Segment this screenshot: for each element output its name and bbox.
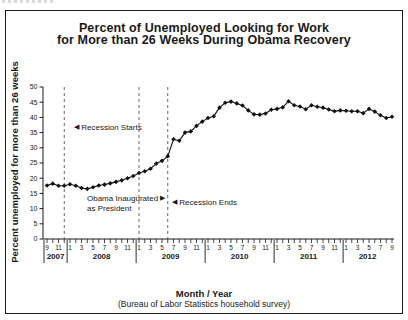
data-point-marker [125,176,130,181]
annotation-recession-ends: ◀ Recession Ends [172,197,237,208]
data-point-marker [315,104,320,109]
y-tick-label: 5 [34,220,38,227]
month-tick-label: 9 [183,244,187,251]
month-tick-label: 3 [218,244,222,251]
month-tick-label: 3 [287,244,291,251]
data-point-marker [234,101,239,106]
data-point-marker [85,187,90,192]
month-tick-label: 3 [356,244,360,251]
month-tick-label: 7 [379,244,383,251]
year-label: 2012 [359,252,377,261]
data-point-marker [355,109,360,114]
annotation-obama-label-line2: as President [87,204,165,214]
year-label: 2011 [300,252,318,261]
month-tick-label: 11 [193,244,200,251]
data-point-marker [344,108,349,113]
data-point-marker [119,178,124,183]
chart-page: Percent of Unemployed Looking for Work f… [0,0,408,320]
y-tick-label: 30 [30,144,38,151]
annotation-recession-starts-label: Recession Starts [81,123,141,132]
month-tick-label: 7 [310,244,314,251]
plot-area: 0510152025303540455091113579111357911135… [0,0,408,320]
data-series-line [47,101,392,189]
y-tick-label: 20 [30,175,38,182]
y-tick-label: 25 [30,159,38,166]
annotation-obama-label-line1: Obama Inaugurated [87,194,158,203]
data-point-marker [102,182,107,187]
data-point-marker [332,109,337,114]
data-point-marker [108,181,113,186]
data-point-marker [229,99,234,104]
month-tick-label: 5 [160,244,164,251]
year-label: 2008 [93,252,111,261]
left-arrow-icon: ◀ [74,123,79,130]
annotation-obama-inaugurated: Obama Inaugurated ▶ as President [87,193,165,214]
data-point-marker [338,108,343,113]
y-tick-label: 40 [30,114,38,121]
month-tick-label: 5 [367,244,371,251]
y-tick-label: 35 [30,129,38,136]
x-axis-label-block: Month / Year (Bureau of Labor Statistics… [5,288,403,309]
x-axis-source-note: (Bureau of Labor Statistics household su… [5,299,403,309]
data-point-marker [91,185,96,190]
annotation-recession-starts: ◀ Recession Starts [74,122,142,133]
month-tick-label: 9 [390,244,394,251]
data-point-marker [321,105,326,110]
month-tick-label: 11 [262,244,269,251]
y-tick-label: 15 [30,190,38,197]
y-tick-label: 45 [30,99,38,106]
data-point-marker [142,169,147,174]
month-tick-label: 1 [68,244,72,251]
data-point-marker [257,112,262,117]
data-point-marker [62,184,67,189]
y-tick-label: 50 [30,83,38,90]
data-point-marker [114,180,119,185]
month-tick-label: 11 [331,244,338,251]
data-point-marker [131,174,136,179]
data-point-marker [68,182,73,187]
month-tick-label: 3 [149,244,153,251]
left-arrow-icon: ◀ [172,198,177,205]
month-tick-label: 3 [80,244,84,251]
data-point-marker [50,181,55,186]
data-point-marker [137,171,142,176]
y-tick-label: 0 [34,235,38,242]
x-axis-label: Month / Year [5,288,403,299]
month-tick-label: 1 [137,244,141,251]
month-tick-label: 7 [241,244,245,251]
month-tick-label: 1 [344,244,348,251]
data-point-marker [298,104,303,109]
data-point-marker [390,114,395,119]
data-point-marker [45,183,50,188]
annotation-recession-ends-label: Recession Ends [179,198,237,207]
year-label: 2009 [162,252,180,261]
month-tick-label: 9 [114,244,118,251]
month-tick-label: 1 [275,244,279,251]
month-tick-label: 7 [103,244,107,251]
month-tick-label: 9 [45,244,49,251]
month-tick-label: 5 [91,244,95,251]
month-tick-label: 11 [124,244,131,251]
data-point-marker [326,107,331,112]
y-tick-label: 10 [30,205,38,212]
data-point-marker [79,186,84,191]
data-point-marker [349,109,354,114]
month-tick-label: 11 [55,244,62,251]
month-tick-label: 5 [298,244,302,251]
data-point-marker [73,184,78,189]
year-label: 2007 [47,252,65,261]
data-point-marker [384,116,389,121]
data-point-marker [171,137,176,142]
month-tick-label: 9 [321,244,325,251]
data-point-marker [275,107,280,112]
month-tick-label: 7 [172,244,176,251]
data-point-marker [96,183,101,188]
month-tick-label: 9 [252,244,256,251]
month-tick-label: 5 [229,244,233,251]
month-tick-label: 1 [206,244,210,251]
right-arrow-icon: ▶ [160,194,165,201]
data-point-marker [56,184,61,189]
year-label: 2010 [231,252,249,261]
